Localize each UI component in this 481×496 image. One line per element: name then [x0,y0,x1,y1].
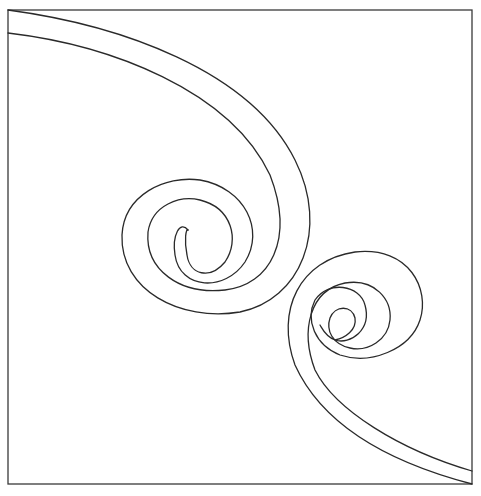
square-frame [8,10,472,484]
upper-spiral-inner-line [8,33,280,291]
artwork-canvas [0,0,481,496]
upper-left-spiral [8,10,310,314]
lower-spiral-inner-line [308,282,472,471]
lower-spiral-outer-line [288,251,472,484]
lower-right-spiral [288,251,472,484]
